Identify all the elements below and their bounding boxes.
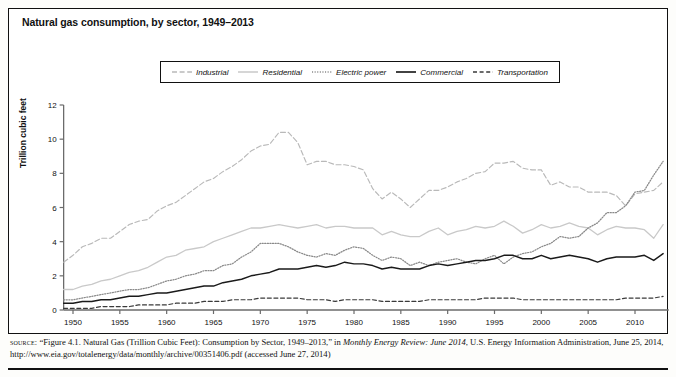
x-axis-tick-label: 1975 [298,318,316,327]
chart-plot-area: 0246810121950195519601965197019751980198… [0,0,676,340]
series-line-commercial [64,254,663,304]
line-chart: 0246810121950195519601965197019751980198… [0,0,676,340]
y-axis-tick-label: 10 [48,135,57,144]
x-axis-tick-label: 1965 [205,318,223,327]
source-note: source: “Figure 4.1. Natural Gas (Trilli… [10,337,666,360]
source-italic-title: Monthly Energy Review: June 2014 [343,337,466,347]
x-axis-tick-label: 2005 [579,318,597,327]
figure-page: Natural gas consumption, by sector, 1949… [0,0,676,377]
x-axis-tick-label: 1970 [251,318,269,327]
x-axis-tick-label: 1985 [392,318,410,327]
x-axis-tick-label: 2010 [626,318,644,327]
y-axis-tick-label: 6 [52,204,57,213]
source-text-1: “Figure 4.1. Natural Gas (Trillion Cubic… [40,337,343,347]
y-axis-tick-label: 2 [52,272,57,281]
x-axis-tick-label: 1960 [158,318,176,327]
bottom-rule [8,368,668,370]
y-axis-tick-label: 12 [48,101,57,110]
source-label: source: [10,338,37,347]
series-line-electric-power [64,161,663,299]
x-axis-tick-label: 1980 [345,318,363,327]
y-axis-tick-label: 8 [52,169,57,178]
series-line-transportation [64,296,663,308]
x-axis-tick-label: 1995 [486,318,504,327]
x-axis-tick-label: 1950 [64,318,82,327]
series-line-industrial [64,132,663,262]
y-axis-tick-label: 0 [52,306,57,315]
x-axis-tick-label: 2000 [532,318,550,327]
x-axis-tick-label: 1990 [439,318,457,327]
x-axis-tick-label: 1955 [111,318,129,327]
y-axis-tick-label: 4 [52,238,57,247]
